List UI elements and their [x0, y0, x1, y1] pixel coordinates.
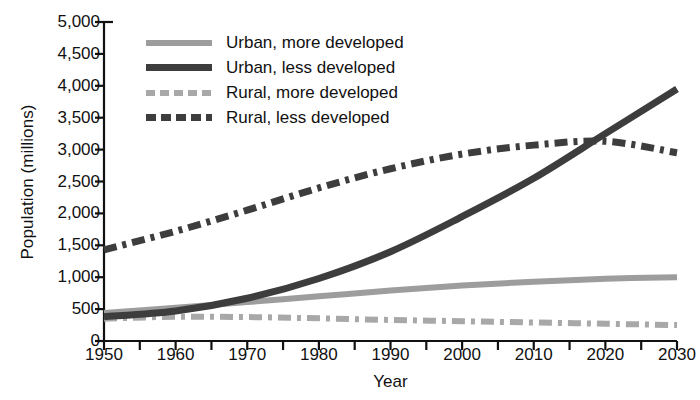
y-axis-tick-labels: 05001,0001,5002,0002,5003,0003,5004,0004… — [28, 0, 100, 400]
x-tick-label: 1990 — [356, 345, 426, 365]
legend-label: Urban, less developed — [226, 58, 395, 78]
chart-legend: Urban, more developedUrban, less develop… — [146, 30, 404, 130]
y-tick-label: 2,500 — [32, 172, 100, 192]
x-tick-label: 2030 — [642, 345, 700, 365]
legend-label: Rural, more developed — [226, 83, 398, 103]
y-tick-label: 2,000 — [32, 203, 100, 223]
series-line-rural-less-developed — [104, 141, 677, 250]
legend-item: Rural, more developed — [146, 80, 404, 105]
series-line-rural-more-developed — [104, 317, 677, 325]
legend-swatch-icon — [146, 64, 212, 71]
x-tick-label: 1960 — [141, 345, 211, 365]
y-tick-label: 1,000 — [32, 267, 100, 287]
x-tick-label: 2010 — [499, 345, 569, 365]
legend-item: Urban, less developed — [146, 55, 404, 80]
y-tick-label: 1,500 — [32, 235, 100, 255]
legend-swatch-icon — [146, 90, 212, 96]
legend-item: Rural, less developed — [146, 105, 404, 130]
x-tick-label: 2000 — [427, 345, 497, 365]
legend-label: Rural, less developed — [226, 108, 389, 128]
legend-label: Urban, more developed — [226, 33, 404, 53]
y-tick-label: 3,500 — [32, 108, 100, 128]
x-tick-label: 2020 — [570, 345, 640, 365]
y-tick-label: 500 — [32, 299, 100, 319]
x-tick-label: 1980 — [284, 345, 354, 365]
x-tick-label: 1970 — [212, 345, 282, 365]
legend-swatch-icon — [146, 114, 212, 121]
y-axis-title: Population (millions) — [18, 62, 38, 302]
y-tick-label: 4,500 — [32, 44, 100, 64]
x-tick-label: 1950 — [69, 345, 139, 365]
y-tick-label: 4,000 — [32, 76, 100, 96]
x-axis-title: Year — [104, 372, 677, 392]
y-tick-label: 3,000 — [32, 140, 100, 160]
legend-item: Urban, more developed — [146, 30, 404, 55]
y-tick-label: 5,000 — [32, 12, 100, 32]
legend-swatch-icon — [146, 40, 212, 46]
